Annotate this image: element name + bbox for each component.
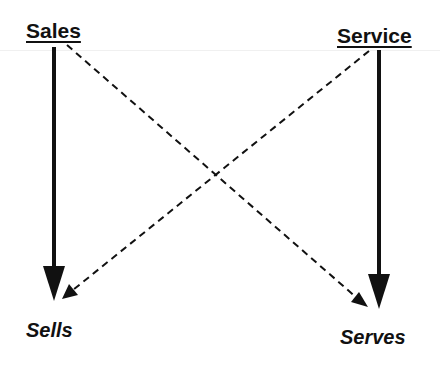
arrowhead-icon xyxy=(43,266,65,301)
target-node-serves: Serves xyxy=(340,326,406,349)
arrowhead-icon xyxy=(351,292,368,307)
edge-service-to-serves xyxy=(368,50,390,309)
edge-sales-to-serves xyxy=(67,45,368,307)
source-node-sales: Sales xyxy=(26,19,81,43)
arrowhead-icon xyxy=(368,274,390,309)
edge-sales-to-sells xyxy=(43,47,65,301)
source-node-service: Service xyxy=(337,24,412,48)
edge-service-to-sells xyxy=(62,51,369,299)
target-node-sells: Sells xyxy=(26,319,73,342)
arrowhead-icon xyxy=(62,284,78,299)
